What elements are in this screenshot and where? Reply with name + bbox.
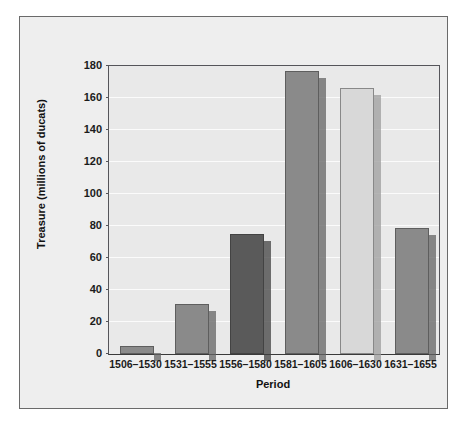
plot-area (108, 65, 440, 355)
x-axis-tick-label: 1631–1655 (371, 358, 451, 370)
bar-side-face (264, 241, 271, 361)
y-axis-title: Treasure (millions of ducats) (35, 74, 47, 274)
gridline (109, 161, 439, 162)
y-axis-tick-label: 100 (72, 188, 102, 199)
bar-front-face (395, 228, 429, 354)
bar-front-face (230, 234, 264, 354)
bar-front-face (340, 88, 374, 354)
gridline (109, 257, 439, 258)
y-axis-tick-mark (106, 65, 109, 66)
x-axis-title: Period (108, 378, 438, 390)
y-axis-tick-mark (106, 225, 109, 226)
y-axis-tick-mark (106, 289, 109, 290)
bar-chart-figure: 020406080100120140160180 Treasure (milli… (0, 0, 467, 426)
y-axis-tick-mark (106, 129, 109, 130)
y-axis-tick-mark (106, 97, 109, 98)
bar-side-face (374, 95, 381, 361)
bar (395, 228, 429, 354)
y-axis-tick-labels: 020406080100120140160180 (70, 65, 102, 353)
gridline (109, 225, 439, 226)
chart-panel: 020406080100120140160180 Treasure (milli… (19, 16, 448, 409)
y-axis-tick-mark (106, 257, 109, 258)
bar (230, 234, 264, 354)
bar (175, 304, 209, 354)
y-axis-tick-label: 180 (72, 60, 102, 71)
bar (120, 346, 154, 354)
y-axis-tick-label: 40 (72, 284, 102, 295)
y-axis-tick-mark (106, 193, 109, 194)
y-axis-tick-mark (106, 161, 109, 162)
bar-front-face (120, 346, 154, 354)
gridline (109, 97, 439, 98)
gridline (109, 193, 439, 194)
bar (340, 88, 374, 354)
bar-side-face (209, 311, 216, 361)
y-axis-tick-mark (106, 353, 109, 354)
y-axis-tick-label: 140 (72, 124, 102, 135)
y-axis-tick-label: 20 (72, 316, 102, 327)
bar-front-face (285, 71, 319, 354)
bar-front-face (175, 304, 209, 354)
gridline (109, 289, 439, 290)
gridline (109, 321, 439, 322)
y-axis-tick-mark (106, 321, 109, 322)
bar (285, 71, 319, 354)
bar-side-face (429, 235, 436, 361)
y-axis-tick-label: 160 (72, 92, 102, 103)
y-axis-tick-label: 60 (72, 252, 102, 263)
bar-side-face (319, 78, 326, 361)
y-axis-tick-label: 120 (72, 156, 102, 167)
gridline (109, 129, 439, 130)
y-axis-tick-label: 80 (72, 220, 102, 231)
